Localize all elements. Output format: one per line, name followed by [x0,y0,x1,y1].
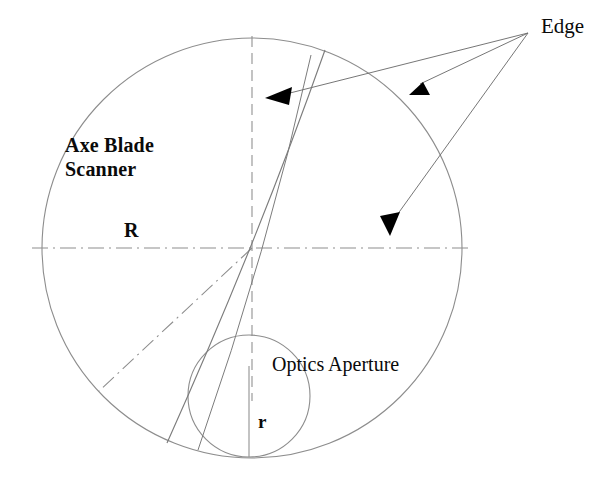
leader-line-upper-left [282,33,528,95]
leader-line-lower [392,33,528,222]
axe-blade-scanner-label: Axe BladeScanner [65,134,154,181]
axe-blade-label-line1: Axe Blade [65,134,154,156]
diagonal-centerline [99,248,252,391]
diagram-canvas: Edge Axe BladeScanner R Optics Aperture … [0,0,615,489]
axe-blade-label-line2: Scanner [65,158,154,182]
leader-line-upper-right [420,33,528,84]
small-radius-label: r [258,411,266,433]
arrowhead-upper-right-icon [409,82,430,95]
blade-edge-leading [167,50,325,443]
arrowhead-lower-icon [380,212,400,236]
arrowhead-upper-left-icon [265,87,292,105]
edge-label: Edge [541,14,584,39]
blade-edge-trailing [198,55,311,450]
big-radius-label: R [124,219,138,243]
optics-aperture-label: Optics Aperture [272,353,399,377]
figure-svg [0,0,615,489]
